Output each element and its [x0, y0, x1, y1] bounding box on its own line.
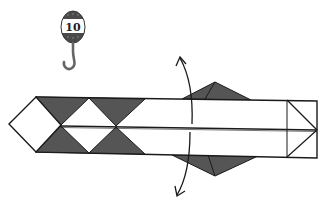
step-number: 10 — [65, 21, 81, 34]
upper-flap — [182, 82, 251, 100]
lower-flap — [172, 155, 258, 176]
origami-diagram: 10 — [0, 0, 327, 208]
step-badge: 10 — [60, 11, 86, 69]
hook-icon — [60, 11, 86, 69]
